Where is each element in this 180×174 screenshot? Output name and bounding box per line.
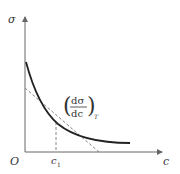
origin-label: O (10, 155, 19, 168)
svg-text:1: 1 (57, 161, 61, 168)
derivative-label: ( dσ dc ) T (63, 93, 99, 120)
svg-text:dc: dc (71, 108, 83, 119)
svg-text:T: T (94, 113, 99, 120)
c1-tick-label: c 1 (51, 155, 61, 168)
y-axis-label: σ (8, 13, 16, 26)
x-axis-label: c (163, 155, 169, 168)
surface-tension-concentration-diagram: σ O c c 1 ( dσ dc ) T (0, 0, 180, 174)
svg-text:dσ: dσ (71, 95, 84, 106)
